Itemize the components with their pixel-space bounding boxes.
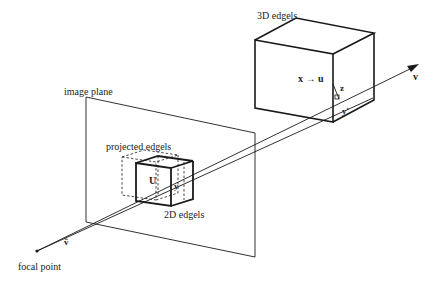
label-x-to-u: x → u <box>298 74 324 84</box>
ray-upper <box>37 98 373 251</box>
z-segment <box>333 84 339 99</box>
label-U: U <box>149 176 156 186</box>
label-v: v <box>413 72 418 82</box>
label-projected-edgels: projected edgels <box>106 142 171 152</box>
label-y-prime: y' <box>342 107 349 116</box>
label-3d-edgels: 3D edgels <box>257 11 297 21</box>
label-z: z <box>340 84 344 93</box>
label-focal-point: focal point <box>18 262 61 272</box>
focal-point-dot <box>35 249 38 252</box>
label-image-plane: image plane <box>64 87 113 97</box>
label-y: y <box>174 182 179 191</box>
label-2d-edgels: 2D edgels <box>164 210 204 220</box>
3d-edgels-box <box>255 18 374 122</box>
label-v-hat: v̂ <box>64 238 69 247</box>
